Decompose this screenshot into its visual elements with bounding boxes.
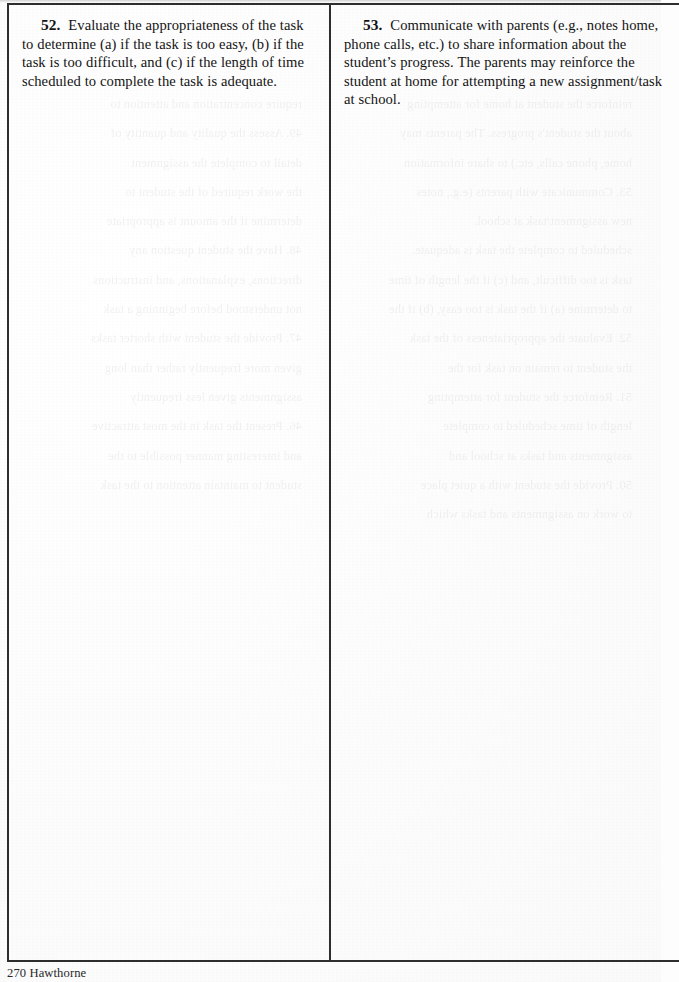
- item-52-number: 52.: [41, 16, 61, 33]
- item-52-text: Evaluate the appropriateness of the task…: [22, 17, 304, 89]
- item-53-text: Communicate with parents (e.g., notes ho…: [344, 17, 662, 107]
- item-53-number: 53.: [363, 16, 383, 33]
- two-column-table: 52. Evaluate the appropriateness of the …: [7, 3, 679, 962]
- item-52-paragraph: 52. Evaluate the appropriateness of the …: [22, 16, 316, 90]
- page-footer: 270 Hawthorne: [7, 966, 86, 980]
- table-cell-item-53: 53. Communicate with parents (e.g., note…: [331, 5, 679, 960]
- item-53-paragraph: 53. Communicate with parents (e.g., note…: [344, 16, 666, 109]
- table-cell-item-52: 52. Evaluate the appropriateness of the …: [9, 5, 331, 960]
